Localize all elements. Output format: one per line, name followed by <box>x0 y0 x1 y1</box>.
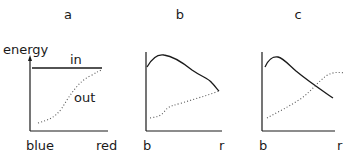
panel-a-in-label: in <box>70 52 82 67</box>
panel-c-x-start-label: b <box>259 138 267 153</box>
panel-c-title: c <box>294 7 301 22</box>
panel-b-out-curve <box>150 91 219 118</box>
panel-a-out-label: out <box>74 90 95 105</box>
panel-b-title: b <box>176 7 184 22</box>
energy-spectrum-diagram: a energy in out blue red b b r c b r <box>0 0 353 157</box>
panel-a-x-end-label: red <box>96 138 117 153</box>
panel-b-x-start-label: b <box>143 138 151 153</box>
panel-c-in-curve <box>265 57 333 98</box>
panel-b-in-curve <box>147 55 219 91</box>
panel-c-x-end-label: r <box>337 138 343 153</box>
panel-a-y-axis-label: energy <box>3 42 49 57</box>
panel-a: a energy in out blue red <box>3 7 117 153</box>
panel-a-title: a <box>64 7 72 22</box>
panel-a-x-start-label: blue <box>26 138 54 153</box>
panel-b-x-end-label: r <box>219 138 225 153</box>
panel-b: b b r <box>143 7 225 153</box>
panel-c: c b r <box>259 7 345 153</box>
